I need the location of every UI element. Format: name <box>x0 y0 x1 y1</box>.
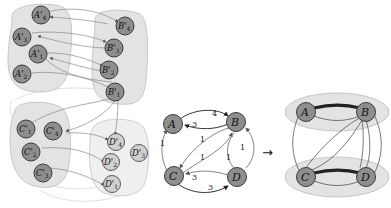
node-c4: C'4 <box>44 122 62 140</box>
node-b2: B'2 <box>100 61 118 79</box>
node-d1: D'1 <box>104 176 121 193</box>
middle-node-d: D <box>228 168 247 187</box>
left-panel: A'4 A'3 A'1 A'2 B'4 B'3 B'2 B'1 <box>8 4 149 201</box>
svg-text:D: D <box>360 171 370 184</box>
node-a1: A'1 <box>29 45 47 63</box>
svg-text:1: 1 <box>160 139 165 148</box>
node-c3: C'3 <box>34 164 52 182</box>
right-node-d: D <box>357 168 376 187</box>
node-a4: A'4 <box>32 6 50 24</box>
middle-node-a: A <box>164 115 183 134</box>
node-c1: C'1 <box>17 120 35 138</box>
node-b1: B'1 <box>106 83 124 101</box>
weight-b-a: 3 <box>192 120 197 129</box>
right-node-c: C <box>297 168 316 187</box>
right-node-a: A <box>297 103 316 122</box>
svg-text:3: 3 <box>208 183 213 192</box>
svg-text:A: A <box>167 118 176 131</box>
node-d2: D'2 <box>103 154 120 171</box>
node-d3: D'3 <box>131 145 148 162</box>
svg-text:1: 1 <box>240 143 245 152</box>
svg-text:1: 1 <box>200 153 205 162</box>
svg-text:1: 1 <box>200 135 205 144</box>
svg-text:C: C <box>169 170 178 183</box>
svg-text:C: C <box>301 171 310 184</box>
svg-text:B: B <box>360 106 369 119</box>
transform-arrow: → <box>262 145 273 160</box>
node-label: A' <box>33 10 42 20</box>
svg-text:B: B <box>230 116 239 129</box>
svg-text:1: 1 <box>226 153 231 162</box>
svg-text:A: A <box>300 106 309 119</box>
node-b4: B'4 <box>116 17 134 35</box>
node-a3: A'3 <box>13 28 31 46</box>
middle-node-b: B <box>227 113 246 132</box>
node-b3: B'3 <box>105 39 123 57</box>
node-a2: A'2 <box>13 65 31 83</box>
middle-panel: 4 3 1 1 1 1 1 3 3 A B C <box>160 109 254 193</box>
middle-node-c: C <box>165 167 184 186</box>
node-d4: D'4 <box>108 134 125 151</box>
weight-a-b: 4 <box>212 109 217 118</box>
svg-text:3: 3 <box>192 173 197 182</box>
right-node-b: B <box>357 103 376 122</box>
right-panel: A B C D <box>285 93 389 197</box>
svg-text:D: D <box>231 171 241 184</box>
graph-coarsening-diagram: A'4 A'3 A'1 A'2 B'4 B'3 B'2 B'1 <box>0 0 391 208</box>
node-c2: C'2 <box>22 143 40 161</box>
